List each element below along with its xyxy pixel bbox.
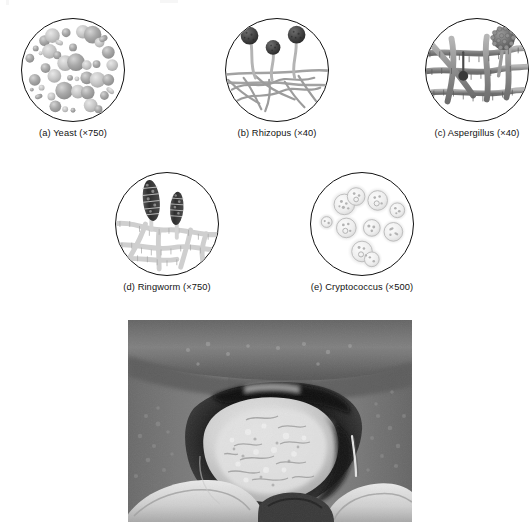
panel-label-cryptococcus: (e) Cryptococcus (×500)	[307, 281, 417, 293]
panel-ringworm: (d) Ringworm (×750)	[112, 172, 222, 293]
panel-aspergillus: (c) Aspergillus (×40)	[422, 18, 532, 139]
micrograph-circle-rhizopus	[225, 18, 329, 122]
rhizopus-illustration	[226, 19, 328, 121]
oral-thrush-photograph	[128, 320, 412, 522]
panel-cryptococcus: (e) Cryptococcus (×500)	[307, 172, 417, 293]
ringworm-illustration	[116, 173, 218, 275]
yeast-illustration	[22, 19, 124, 121]
panel-label-ringworm: (d) Ringworm (×750)	[112, 281, 222, 293]
panel-label-aspergillus: (c) Aspergillus (×40)	[422, 127, 532, 139]
cryptococcus-illustration	[311, 173, 413, 275]
micrograph-circle-aspergillus	[425, 18, 529, 122]
panel-yeast: (a) Yeast (×750)	[18, 18, 128, 139]
scan-artifact	[6, 0, 9, 5]
oral-cavity-photo-image	[128, 320, 412, 522]
figure-sheet: (a) Yeast (×750)	[0, 0, 532, 522]
micrograph-circle-yeast	[21, 18, 125, 122]
panel-label-yeast: (a) Yeast (×750)	[18, 127, 128, 139]
panel-rhizopus: (b) Rhizopus (×40)	[222, 18, 332, 139]
micrograph-circle-cryptococcus	[310, 172, 414, 276]
aspergillus-illustration	[426, 19, 528, 121]
panel-label-rhizopus: (b) Rhizopus (×40)	[222, 127, 332, 139]
scan-artifact	[160, 0, 178, 3]
micrograph-circle-ringworm	[115, 172, 219, 276]
